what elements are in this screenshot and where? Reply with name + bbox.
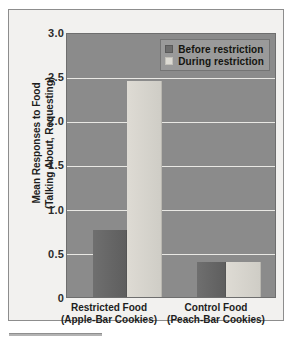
plot-area: Before restriction During restriction bbox=[66, 33, 276, 298]
y-tick-2-0: 2.0 bbox=[24, 115, 64, 127]
gridline-2-5 bbox=[67, 78, 275, 79]
bar-control-before bbox=[197, 262, 226, 297]
x-axis-group-control-line2: (Peach-Bar Cookies) bbox=[161, 314, 271, 326]
legend-swatch-during-icon bbox=[165, 57, 173, 65]
legend-item-before: Before restriction bbox=[165, 43, 264, 55]
x-axis-group-restricted-line2: (Apple-Bar Cookies) bbox=[54, 314, 164, 326]
chart-legend: Before restriction During restriction bbox=[160, 39, 270, 71]
legend-swatch-before-icon bbox=[165, 45, 173, 53]
gridline-1-0 bbox=[67, 210, 275, 211]
legend-label-during: During restriction bbox=[178, 56, 264, 67]
figure-frame: Mean Responses to Food (Talking About, R… bbox=[8, 9, 284, 321]
y-tick-1-0: 1.0 bbox=[24, 204, 64, 216]
footer-rule bbox=[9, 333, 102, 336]
bar-restricted-during bbox=[127, 81, 162, 297]
y-tick-0-5: 0.5 bbox=[24, 248, 64, 260]
y-tick-1-5: 1.5 bbox=[24, 159, 64, 171]
y-tick-2-5: 2.5 bbox=[24, 71, 64, 83]
bar-restricted-before bbox=[93, 230, 127, 297]
x-axis-group-control: Control Food (Peach-Bar Cookies) bbox=[161, 302, 271, 326]
legend-label-before: Before restriction bbox=[178, 44, 263, 55]
x-axis-group-restricted: Restricted Food (Apple-Bar Cookies) bbox=[54, 302, 164, 326]
y-tick-3-0: 3.0 bbox=[24, 27, 64, 39]
y-axis-ticks: 3.0 2.5 2.0 1.5 1.0 0.5 0 bbox=[19, 33, 64, 298]
gridline-2-0 bbox=[67, 122, 275, 123]
gridline-1-5 bbox=[67, 166, 275, 167]
x-axis-group-restricted-line1: Restricted Food bbox=[54, 302, 164, 314]
x-axis-group-control-line1: Control Food bbox=[161, 302, 271, 314]
legend-item-during: During restriction bbox=[165, 55, 264, 67]
bar-control-during bbox=[226, 262, 261, 297]
